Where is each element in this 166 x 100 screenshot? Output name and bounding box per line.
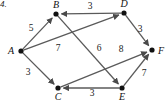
graph-edge-c-to-f (60, 52, 147, 87)
graph-node-f (149, 47, 154, 52)
graph-edge-d-to-b (61, 13, 121, 14)
edge-weight-a-b: 5 (29, 23, 34, 33)
node-label-f: F (158, 46, 164, 56)
edge-layer (23, 13, 149, 88)
node-label-a: A (8, 46, 14, 56)
edge-weight-e-c: 3 (90, 88, 95, 98)
graph-node-b (53, 11, 58, 16)
graph-node-d (121, 10, 126, 15)
edge-weight-e-f: 7 (142, 68, 147, 78)
node-label-b: B (53, 0, 59, 10)
graph-node-e (119, 85, 124, 90)
edge-weight-a-c: 3 (26, 67, 31, 77)
edge-weight-b-e: 6 (97, 43, 102, 53)
edge-weight-a-d: 7 (56, 43, 61, 53)
node-layer (18, 10, 154, 90)
edge-weight-c-f: 8 (119, 44, 124, 54)
directed-graph-canvas (0, 0, 166, 100)
node-label-e: E (119, 92, 125, 100)
graph-node-c (55, 85, 60, 90)
node-label-d: D (120, 0, 127, 9)
edge-weight-d-b: 3 (88, 1, 93, 11)
graph-figure: 4. ABCDEF 537336837 (0, 0, 166, 100)
node-label-c: C (55, 92, 62, 100)
graph-node-a (18, 48, 23, 53)
edge-weight-d-f: 3 (138, 24, 143, 34)
